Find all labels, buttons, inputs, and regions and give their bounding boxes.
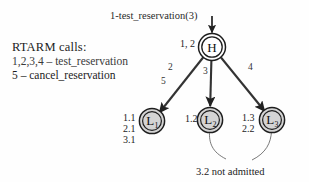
node-l2-side-label: 1.2: [185, 113, 198, 124]
node-l3-subscript: 3: [275, 120, 279, 129]
bottom-annotation: 3.2 not admitted: [196, 166, 265, 178]
node-l1-subscript: 1: [155, 121, 159, 130]
figure-canvas: H L 1 L 2 L 3 1-test_reservation(3) RTAR…: [0, 0, 309, 182]
node-l1: L 1: [139, 108, 164, 133]
edge-h-to-l1: [160, 57, 204, 113]
node-l2: L 2: [197, 107, 222, 132]
edge-label-h-l1-first: 2: [168, 62, 173, 73]
edge-label-h-l2: 3: [203, 66, 208, 77]
node-l3: L 3: [259, 107, 284, 132]
edge-label-h-l3: 4: [248, 62, 253, 73]
node-l3-side-labels: 1.3 2.2: [242, 112, 255, 134]
legend-title: RTARM calls:: [12, 40, 87, 54]
legend-line-cancel-reservation: 5 – cancel_reservation: [12, 69, 115, 82]
leader-curve-l3: [252, 131, 272, 160]
edge-h-to-l3: [221, 58, 265, 112]
tree-diagram: H L 1 L 2 L 3: [0, 0, 309, 182]
edge-label-h-l1-second: 5: [161, 76, 166, 87]
edge-h-to-l2: [210, 60, 211, 106]
legend-line-test-reservation: 1,2,3,4 – test_reservation: [12, 55, 128, 68]
node-h: H: [199, 34, 226, 61]
node-l3-side-label-2: 2.2: [242, 123, 255, 134]
top-call-label: 1-test_reservation(3): [110, 10, 197, 22]
node-l3-letter: L: [266, 112, 274, 127]
node-l1-side-label-1: 1.1: [123, 112, 136, 123]
leader-curve-l2: [209, 132, 226, 160]
node-l1-letter: L: [146, 113, 154, 128]
node-l2-subscript: 2: [213, 120, 217, 129]
node-l1-side-label-3: 3.1: [123, 134, 136, 145]
node-h-letter: H: [207, 40, 216, 55]
node-l2-letter: L: [204, 112, 212, 127]
node-h-side-label: 1, 2: [180, 38, 195, 49]
node-l1-side-labels: 1.1 2.1 3.1: [123, 112, 136, 146]
node-l1-side-label-2: 2.1: [123, 123, 136, 134]
node-l3-side-label-1: 1.3: [242, 112, 255, 123]
